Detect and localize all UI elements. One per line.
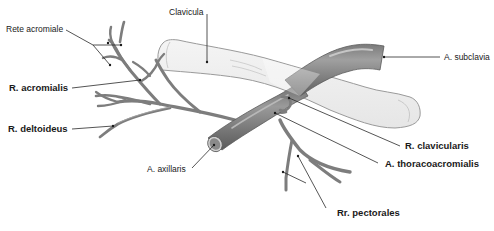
label-a-thoracoacromialis: A. thoracoacromialis	[385, 158, 479, 169]
label-r-deltoideus: R. deltoideus	[8, 123, 68, 134]
label-a-subclavia: A. subclavia	[444, 52, 490, 62]
label-clavicula: Clavicula	[169, 7, 204, 17]
label-a-axillaris: A. axillaris	[147, 164, 186, 174]
label-rr-pectorales: Rr. pectorales	[337, 207, 400, 218]
label-rete-acromiale: Rete acromiale	[6, 24, 63, 34]
label-r-acromialis: R. acromialis	[9, 82, 68, 93]
diagram-canvas: Clavicula Rete acromiale R. acromialis R…	[0, 0, 494, 231]
label-r-clavicularis: R. clavicularis	[405, 140, 469, 151]
acromial-branches	[96, 22, 235, 137]
anatomy-diagram: Clavicula Rete acromiale R. acromialis R…	[0, 0, 494, 231]
